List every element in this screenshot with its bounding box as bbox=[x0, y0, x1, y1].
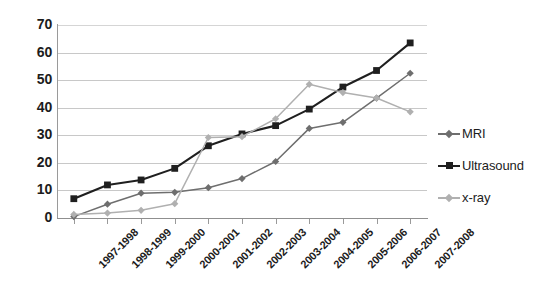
data-point bbox=[171, 200, 178, 207]
legend-label: Ultrasound bbox=[462, 158, 524, 173]
series-mri bbox=[70, 70, 414, 221]
series-x-ray bbox=[70, 81, 414, 218]
line-chart: 706050403020100 1997-19981998-19991999-2… bbox=[0, 0, 537, 299]
legend-item-mri[interactable]: MRI bbox=[438, 121, 537, 146]
data-point bbox=[138, 177, 145, 184]
data-point bbox=[171, 165, 178, 172]
data-point bbox=[137, 190, 144, 197]
data-point bbox=[272, 122, 279, 129]
data-point bbox=[407, 108, 414, 115]
data-point bbox=[70, 195, 77, 202]
legend-item-x-ray[interactable]: x-ray bbox=[438, 185, 537, 210]
data-point bbox=[104, 201, 111, 208]
legend-label: MRI bbox=[462, 126, 486, 141]
legend-marker-icon bbox=[438, 128, 460, 140]
data-point bbox=[205, 184, 212, 191]
series-line bbox=[74, 84, 410, 214]
data-point bbox=[104, 182, 111, 189]
data-point bbox=[104, 209, 111, 216]
data-point bbox=[238, 175, 245, 182]
data-point bbox=[306, 106, 313, 113]
data-point bbox=[373, 67, 380, 74]
data-point bbox=[205, 134, 212, 141]
data-point bbox=[171, 189, 178, 196]
data-point bbox=[137, 207, 144, 214]
data-point bbox=[407, 40, 414, 47]
chart-legend: MRIUltrasoundx-ray bbox=[438, 121, 537, 217]
legend-label: x-ray bbox=[462, 190, 490, 205]
legend-marker-icon bbox=[438, 192, 460, 204]
legend-item-ultrasound[interactable]: Ultrasound bbox=[438, 153, 537, 178]
legend-marker-icon bbox=[438, 160, 460, 172]
